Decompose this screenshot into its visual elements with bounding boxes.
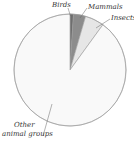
other-label-line2: animal groups	[2, 130, 53, 138]
insects-label: Insects	[110, 14, 134, 22]
pie-chart: Birds Mammals Insects Other animal group…	[0, 0, 134, 147]
other-label-line1: Other	[14, 121, 35, 129]
mammals-label: Mammals	[87, 3, 123, 11]
pie-slice-other-animal-groups	[14, 14, 126, 126]
pie-slices	[14, 14, 126, 126]
birds-label: Birds	[51, 1, 71, 9]
